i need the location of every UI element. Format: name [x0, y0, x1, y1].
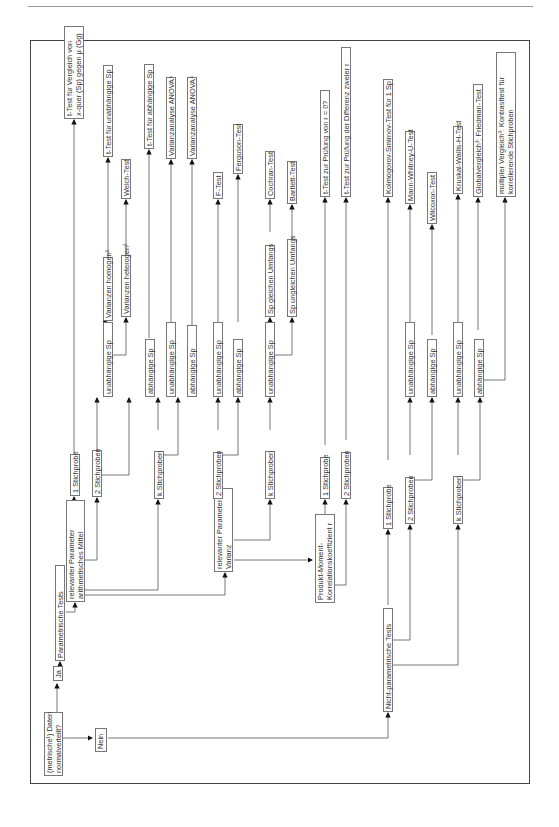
result-mann-whitney-u: Mann-Whitney-U-Test: [405, 131, 415, 204]
node-sp-gleichen-umfangs: Sp gleichen Umfangs: [265, 245, 275, 317]
result-kolmogorov-smirnov: Kolmogorov-Smirnov-Test für 1 Sp: [383, 79, 393, 197]
node-np-1-stichprobe: 1 Stichprobe: [383, 487, 393, 529]
node-sp-ungleichen-umfangs: Sp ungleichen Umfangs: [287, 239, 297, 317]
result-ferguson-test: Ferguson-Test: [233, 124, 243, 174]
node-korr-2-stichproben: 2 Stichproben: [341, 452, 351, 499]
node-parametrische-tests: Parametrische Tests: [55, 565, 65, 661]
result-bartlett-test: Bartlett-Test: [287, 161, 297, 204]
node-nein: Nein: [95, 728, 107, 752]
node-mittel-k-unabhaengig: unabhängige Sp: [166, 322, 176, 397]
node-param-varianz: relevanter Parameter Varianz: [214, 488, 233, 572]
result-anova-unabhaengig: Varianzanalyse ANOVA⁴: [166, 77, 176, 159]
node-varianz-2-stichproben: 2 Stichproben: [213, 452, 223, 499]
node-varianz-2-unabhaengig: unabhängige Sp: [213, 322, 223, 397]
node-ja: Ja: [53, 666, 63, 681]
node-varianz-2-abhaengig: abhängige Sp: [233, 339, 243, 397]
result-kruskal-wallis: Kruskal-Wallis-H-Test: [453, 126, 463, 194]
node-np-2-abhaengig: abhängige Sp: [427, 339, 437, 397]
node-varianzen-heterogen: Varianzen heterogen²: [121, 255, 131, 317]
node-korr-1-stichprobe: 1 Stichprobe: [320, 457, 330, 499]
result-cochran-test: Cochran-Test: [265, 151, 275, 199]
result-t-test-r-differenz: t-Test zur Prüfung der Differenz zweier …: [341, 47, 351, 197]
node-root-normalverteilt: (metrische¹) Daten normalverteilt?: [44, 712, 63, 776]
node-np-2-unabhaengig: unabhängige Sp: [405, 322, 415, 397]
node-varianzen-homogen: Varianzen homogen²: [103, 257, 113, 321]
node-param-mittel: relevanter Parameter arithmetisches Mitt…: [66, 500, 85, 602]
node-mittel-2-abhaengig: abhängige Sp: [145, 339, 155, 397]
result-t-test-r0: t-Test zur Prüfung von r = 0?: [320, 90, 330, 197]
result-friedman: Globalvergleich³: Friedman-Test: [473, 84, 483, 197]
result-wilcoxon: Wilcoxon-Test: [427, 172, 437, 224]
node-mittel-k-abhaengig: abhängige Sp: [187, 325, 197, 397]
result-t-test-unabhaengig: t-Test für unabhängige Sp: [103, 65, 113, 157]
node-varianz-k-stichproben: k Stichproben: [265, 451, 275, 499]
node-nicht-parametrische-tests: Nicht-parametrische Tests: [383, 608, 393, 712]
node-np-2-stichproben: 2 Stichproben: [405, 477, 415, 524]
node-korrelation-r: Produkt-Moment- Korrelationskoeffizient …: [315, 514, 335, 603]
node-mittel-2-unabhaengig: unabhängige Sp: [103, 322, 113, 397]
result-multipler-vergleich: multipler Vergleich³: Kontrasttest für k…: [496, 52, 516, 197]
result-welch-test: Welch-Test: [121, 159, 131, 199]
result-t-test-abhaengig: t-Test für abhängige Sp: [144, 64, 154, 149]
node-np-k-stichproben: k Stichproben: [453, 476, 463, 524]
result-f-test: F-Test: [213, 172, 223, 199]
result-anova-abhaengig: Varianzanalyse ANOVA⁴: [187, 77, 197, 159]
node-mittel-k-stichproben: k Stichproben: [154, 451, 164, 499]
node-mittel-1-stichprobe: 1 Stichprobe: [70, 454, 80, 496]
node-mittel-2-stichproben: 2 Stichproben: [92, 450, 102, 497]
node-varianz-k-unabhaengig: unabhängige Sp: [265, 322, 275, 397]
node-np-k-unabhaengig: unabhängige Sp: [453, 322, 463, 397]
node-np-k-abhaengig: abhängige Sp: [474, 339, 484, 397]
result-t-test-1sp: t-Test für Vergleich von x-quer (Sp) geg…: [64, 26, 84, 119]
